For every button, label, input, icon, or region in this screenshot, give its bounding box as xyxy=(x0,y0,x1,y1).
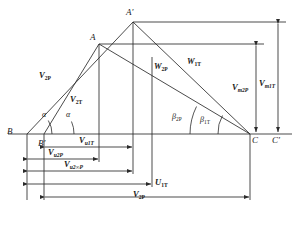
vector-label-v2t-left: V2T xyxy=(70,95,82,104)
vector-label-vm2p: Vm2P xyxy=(232,83,248,92)
angle-label-beta-1t: β1T xyxy=(200,116,210,124)
segment-a-prime-to-c xyxy=(133,22,250,134)
angle-label-alpha-inner: α xyxy=(66,111,70,119)
point-label-b: B xyxy=(7,127,13,136)
vector-label-vm1t: Vm1T xyxy=(259,79,275,88)
dimension-label-vu2p: Vu2P xyxy=(48,148,63,157)
angle-label-alpha-outer: α xyxy=(42,111,46,119)
vector-label-v2p-left: V2P xyxy=(39,71,51,80)
point-label-b-prime: B′ xyxy=(38,139,45,148)
arc-beta-1t xyxy=(218,116,223,135)
point-label-c: C xyxy=(252,136,258,145)
arc-beta-2p xyxy=(190,107,197,135)
vector-label-w1t: W1T xyxy=(187,57,201,66)
point-label-a-prime: A′ xyxy=(126,8,133,17)
vector-label-w2p: W2P xyxy=(154,62,168,71)
segment-b-prime-to-a xyxy=(44,44,99,134)
angle-label-beta-2p: β2P xyxy=(172,113,182,121)
dimension-label-v2p-bottom: V2P xyxy=(133,190,145,199)
arc-alpha-inner xyxy=(72,122,75,135)
diagram-canvas: B B′ A A′ C C′ V2P V2T W2P W1T Vm2P Vm1T… xyxy=(0,0,300,226)
dimension-label-u1t: U1T xyxy=(155,178,168,187)
dimension-label-vu2infp: Vu2∞P xyxy=(64,160,83,169)
point-label-a: A xyxy=(90,33,96,42)
point-label-c-prime: C′ xyxy=(272,136,280,145)
dimension-label-vu1t: Vu1T xyxy=(79,136,94,145)
